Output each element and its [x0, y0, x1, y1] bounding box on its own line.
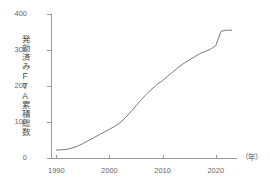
plot-area	[0, 0, 270, 193]
chart-figure: 発効済みFTA累積総数 4003002001000 19902000201020…	[0, 0, 270, 193]
data-line-series-0	[56, 30, 231, 150]
